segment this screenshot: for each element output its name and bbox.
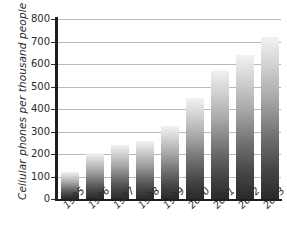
bar-2003 (261, 37, 279, 199)
y-axis-tick-label: 0 (22, 193, 50, 204)
bar-2002 (236, 55, 254, 199)
y-axis-tick-label: 500 (22, 81, 50, 92)
bar-2001 (211, 70, 229, 199)
bar-chart: Cellular phones per thousand people 0100… (0, 0, 287, 239)
y-axis-tick-label: 200 (22, 148, 50, 159)
y-axis-tick-label: 800 (22, 13, 50, 24)
y-axis-tick-label: 600 (22, 58, 50, 69)
y-axis-tick-label: 100 (22, 171, 50, 182)
bar-2000 (186, 98, 204, 199)
y-axis-tick-label: 400 (22, 103, 50, 114)
bar-series (57, 19, 281, 199)
y-axis-tick-label: 700 (22, 36, 50, 47)
y-axis-tick-label: 300 (22, 126, 50, 137)
